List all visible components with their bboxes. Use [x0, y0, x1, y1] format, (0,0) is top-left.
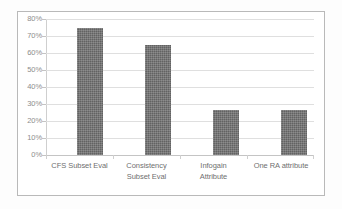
chart-figure: 80% 70% 60% 50% 40% 30% 20% 10% 0% [0, 0, 342, 209]
gridline [46, 19, 314, 20]
x-label-line: Infogain [200, 161, 226, 170]
y-tick-label: 40% [16, 83, 42, 91]
x-label-line: Attribute [179, 172, 248, 183]
y-tick-label: 70% [16, 32, 42, 40]
x-axis-tick-marks [46, 155, 314, 159]
y-tick-label: 20% [16, 117, 42, 125]
x-axis-label-one-ra-attribute: One RA attribute [245, 161, 317, 172]
bar [145, 45, 171, 156]
plot-area [46, 19, 314, 155]
x-axis-label-cfs-subset-eval: CFS Subset Eval [45, 161, 114, 172]
x-axis-category-labels: CFS Subset Eval Consistency Subset Eval … [46, 161, 314, 191]
y-tick-label: 0% [16, 151, 42, 159]
y-axis-tick-labels: 80% 70% 60% 50% 40% 30% 20% 10% 0% [18, 19, 42, 155]
x-label-line: CFS Subset Eval [51, 161, 107, 170]
bar [281, 110, 307, 155]
y-tick-label: 30% [16, 100, 42, 108]
x-label-line: Subset Eval [112, 172, 181, 183]
chart-frame: 80% 70% 60% 50% 40% 30% 20% 10% 0% [17, 11, 325, 196]
y-tick-label: 80% [16, 15, 42, 23]
x-tick-mark [247, 155, 248, 159]
y-tick-label: 10% [16, 134, 42, 142]
bar [213, 110, 239, 155]
x-tick-mark [113, 155, 114, 159]
x-tick-mark [180, 155, 181, 159]
x-label-line: One RA attribute [254, 161, 309, 170]
y-tick-label: 50% [16, 66, 42, 74]
x-label-line: Consistency [126, 161, 166, 170]
x-tick-mark [313, 155, 314, 159]
x-tick-mark [46, 155, 47, 159]
bar [77, 28, 103, 156]
y-tick-label: 60% [16, 49, 42, 57]
x-axis-label-consistency-subset-eval: Consistency Subset Eval [112, 161, 181, 182]
x-axis-label-infogain-attribute: Infogain Attribute [179, 161, 248, 182]
